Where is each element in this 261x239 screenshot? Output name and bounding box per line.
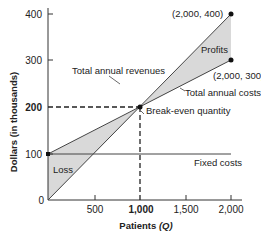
label-break-even: Break-even quantity [146, 105, 231, 116]
y-tick-100: 100 [25, 149, 42, 160]
label-pt300: (2,000, 300) [213, 70, 261, 81]
y-tick-200: 200 [25, 102, 42, 113]
label-loss: Loss [53, 164, 73, 175]
x-tick-1500: 1,500 [173, 204, 198, 215]
label-profits: Profits [201, 44, 228, 55]
label-pt400: (2,000, 400) [172, 8, 223, 19]
y-tick-400: 400 [25, 9, 42, 20]
x-tick-500: 500 [87, 204, 104, 215]
break-even-point [138, 105, 143, 110]
x-tick-1000: 1,000 [128, 204, 153, 215]
point-2000-400 [229, 12, 234, 17]
x-axis-title: Patients (Q) [119, 220, 172, 231]
label-revenues: Total annual revenues [72, 65, 165, 76]
y-tick-300: 300 [25, 55, 42, 66]
label-fixed-costs: Fixed costs [194, 157, 242, 168]
point-0-100 [46, 152, 50, 156]
label-costs: Total annual costs [185, 87, 261, 98]
y-tick-0: 0 [38, 195, 44, 206]
x-tick-2000: 2,000 [218, 204, 243, 215]
break-even-chart: 400 300 200 100 0 500 1,000 1,500 2,000 … [0, 0, 261, 239]
point-2000-300 [229, 58, 234, 63]
y-axis-title: Dollars (in thousands) [8, 72, 19, 172]
